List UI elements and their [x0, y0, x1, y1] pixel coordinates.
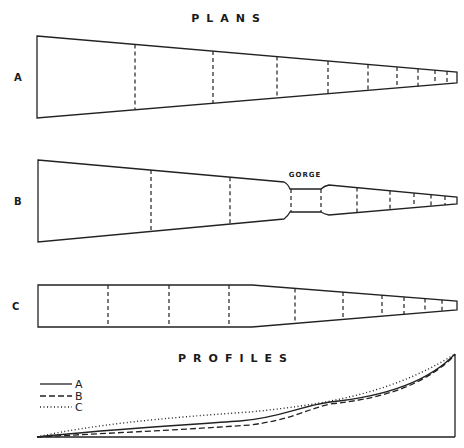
plans-title: PLANS [191, 12, 267, 25]
plan-c-dividers [108, 285, 442, 327]
estuary-diagram: PLANS A B GORGE [0, 0, 464, 448]
plan-a-outline [37, 36, 457, 118]
plan-a-dividers [135, 44, 447, 109]
profiles-frame [37, 354, 455, 437]
plan-b-dividers [151, 170, 445, 231]
gorge-label: GORGE [289, 171, 322, 179]
plan-a: A [14, 36, 457, 118]
plan-c-outline [38, 285, 457, 327]
profiles-title: PROFILES [178, 352, 294, 365]
plan-c: C [12, 285, 457, 327]
profile-a-curve [37, 354, 455, 437]
profile-curves [37, 354, 455, 437]
plan-c-label: C [12, 301, 19, 312]
legend-label-c: C [75, 401, 83, 414]
profile-b-curve [37, 355, 455, 437]
plan-b: B GORGE [14, 160, 457, 242]
plan-b-label: B [14, 196, 22, 207]
plan-b-outline [38, 160, 457, 242]
profile-c-curve [37, 354, 455, 437]
profiles-legend: A B C [40, 378, 83, 414]
plan-a-label: A [14, 72, 22, 83]
